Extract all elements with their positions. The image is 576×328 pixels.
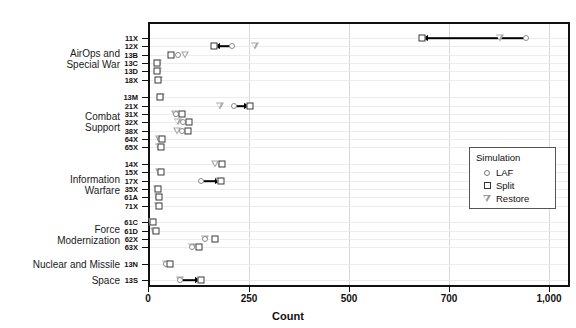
data-point-split[interactable]: [178, 111, 185, 118]
data-point-split[interactable]: [195, 244, 202, 251]
y-axis-tick-label: 61C: [124, 218, 138, 227]
square-icon: [481, 180, 493, 192]
data-point-split[interactable]: [217, 178, 224, 185]
data-point-split[interactable]: [212, 236, 219, 243]
gridline-horizontal: [150, 264, 568, 265]
gridline-horizontal: [150, 63, 568, 64]
data-point-split[interactable]: [418, 35, 425, 42]
group-label: AirOps andSpecial War: [66, 48, 120, 70]
data-point-split[interactable]: [159, 136, 166, 143]
y-axis-tick: [142, 197, 148, 198]
data-point-split[interactable]: [185, 119, 192, 126]
group-label-line: Support: [85, 122, 120, 133]
y-axis-tick: [142, 239, 148, 240]
y-axis-tick: [142, 139, 148, 140]
data-point-split[interactable]: [156, 94, 163, 101]
data-point-restore[interactable]: [181, 52, 189, 59]
x-axis-tick-label: 0: [145, 293, 151, 304]
data-point-split[interactable]: [157, 169, 164, 176]
y-axis-tick: [142, 80, 148, 81]
x-axis-tick-label: 700: [441, 293, 458, 304]
y-axis-tick: [142, 247, 148, 248]
gridline-horizontal: [150, 71, 568, 72]
data-point-laf[interactable]: [175, 52, 181, 58]
data-point-split[interactable]: [153, 228, 160, 235]
x-axis-tick: [249, 287, 250, 292]
group-label-line: Information: [70, 174, 120, 185]
y-axis-tick-label: 15X: [125, 168, 138, 177]
group-label-line: Nuclear and Missile: [33, 259, 120, 270]
gridline-horizontal: [150, 55, 568, 56]
legend-label-split: Split: [496, 180, 514, 191]
data-point-split[interactable]: [155, 186, 162, 193]
x-axis-tick: [449, 287, 450, 292]
gridline-horizontal: [150, 139, 568, 140]
data-point-split[interactable]: [197, 277, 204, 284]
data-point-split[interactable]: [154, 68, 161, 75]
y-axis-tick: [142, 71, 148, 72]
data-point-split[interactable]: [153, 60, 160, 67]
triangle-down-icon: [481, 193, 493, 205]
y-axis-tick: [142, 106, 148, 107]
data-point-split[interactable]: [185, 128, 192, 135]
y-axis-tick-label: 13N: [124, 260, 138, 269]
data-point-split[interactable]: [247, 103, 254, 110]
x-axis-tick: [549, 287, 550, 292]
y-axis-tick-label: 65X: [125, 143, 138, 152]
gridline-horizontal: [150, 122, 568, 123]
y-axis-tick: [142, 264, 148, 265]
x-axis-tick: [148, 287, 149, 292]
x-axis-tick-label: 1,000: [536, 293, 561, 304]
data-point-split[interactable]: [154, 77, 161, 84]
data-point-restore[interactable]: [216, 103, 224, 110]
y-axis-tick-label: 13S: [125, 276, 138, 285]
data-point-split[interactable]: [210, 43, 217, 50]
legend-item-laf[interactable]: LAF: [476, 166, 549, 179]
group-label: Nuclear and Missile: [33, 259, 120, 270]
data-point-split[interactable]: [218, 161, 225, 168]
data-point-laf[interactable]: [202, 236, 208, 242]
group-label: ForceModernization: [57, 224, 120, 246]
data-point-laf[interactable]: [198, 178, 204, 184]
group-label: CombatSupport: [85, 111, 120, 133]
group-label-line: Special War: [66, 59, 120, 70]
y-axis-tick-label: 61A: [124, 193, 138, 202]
data-point-laf[interactable]: [523, 35, 529, 41]
group-label-line: Combat: [85, 111, 120, 122]
chart-root: 11X12X13B13C13D18X13M21X31X32X38X64X65X1…: [0, 0, 576, 328]
data-point-split[interactable]: [158, 144, 165, 151]
data-point-split[interactable]: [167, 261, 174, 268]
gridline-horizontal: [150, 80, 568, 81]
data-point-split[interactable]: [155, 203, 162, 210]
legend-item-restore[interactable]: Restore: [476, 192, 549, 205]
legend-item-split[interactable]: Split: [476, 179, 549, 192]
data-point-laf[interactable]: [177, 277, 183, 283]
legend-label-restore: Restore: [496, 193, 529, 204]
gridline-horizontal: [150, 231, 568, 232]
gridline-horizontal: [150, 131, 568, 132]
y-axis-tick: [142, 122, 148, 123]
group-label-line: Force: [57, 224, 120, 235]
y-axis-tick-label: 32X: [125, 118, 138, 127]
y-axis-tick: [142, 189, 148, 190]
legend[interactable]: Simulation LAF Split Restore: [469, 147, 556, 209]
data-point-restore[interactable]: [496, 35, 504, 42]
data-point-laf[interactable]: [231, 103, 237, 109]
gridline-horizontal: [150, 97, 568, 98]
y-axis-tick: [142, 181, 148, 182]
data-point-split[interactable]: [150, 219, 157, 226]
data-point-split[interactable]: [155, 194, 162, 201]
data-point-restore[interactable]: [251, 43, 259, 50]
legend-title: Simulation: [476, 152, 549, 163]
data-point-laf[interactable]: [229, 43, 235, 49]
x-axis-tick-label: 500: [341, 293, 358, 304]
data-point-split[interactable]: [168, 52, 175, 59]
y-axis-tick: [142, 206, 148, 207]
gridline-horizontal: [150, 222, 568, 223]
y-axis-tick: [142, 164, 148, 165]
annotation-arrow-line: [422, 37, 526, 39]
y-axis-tick-label: 63X: [125, 243, 138, 252]
y-axis-tick: [142, 114, 148, 115]
group-label-line: AirOps and: [66, 48, 120, 59]
group-label: Space: [92, 275, 120, 286]
